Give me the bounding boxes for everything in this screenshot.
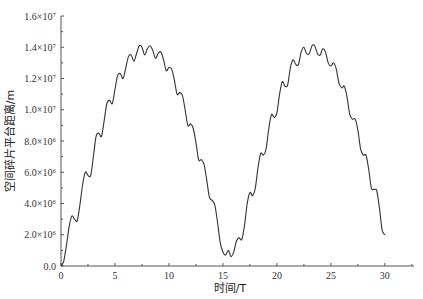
y-tick-label: 1.0×10⁷: [24, 104, 56, 115]
y-tick-label: 4.0×10⁶: [24, 198, 56, 209]
y-tick-label: 0.0: [44, 261, 57, 272]
x-tick-label: 25: [326, 270, 336, 281]
y-tick-label: 8.0×10⁶: [24, 136, 56, 147]
x-tick-label: 0: [59, 270, 64, 281]
x-tick-label: 20: [272, 270, 282, 281]
x-tick-label: 10: [164, 270, 174, 281]
x-tick-label: 5: [112, 270, 117, 281]
x-axis-title: 时间/T: [214, 282, 247, 295]
y-tick-label: 6.0×10⁶: [24, 167, 56, 178]
distance-line: [61, 45, 385, 266]
axes: 0.02.0×10⁶4.0×10⁶6.0×10⁶8.0×10⁶1.0×10⁷1.…: [24, 11, 414, 282]
y-tick-label: 1.6×10⁷: [24, 11, 56, 22]
y-tick-label: 1.2×10⁷: [24, 73, 56, 84]
y-tick-label: 2.0×10⁶: [24, 229, 56, 240]
x-tick-label: 30: [380, 270, 390, 281]
y-ticks: 0.02.0×10⁶4.0×10⁶6.0×10⁶8.0×10⁶1.0×10⁷1.…: [24, 11, 64, 272]
x-tick-label: 15: [218, 270, 228, 281]
y-axis-title: 空间碎片平台距离/m: [3, 90, 17, 192]
line-chart: 0.02.0×10⁶4.0×10⁶6.0×10⁶8.0×10⁶1.0×10⁷1.…: [0, 0, 423, 299]
y-tick-label: 1.4×10⁷: [24, 42, 56, 53]
